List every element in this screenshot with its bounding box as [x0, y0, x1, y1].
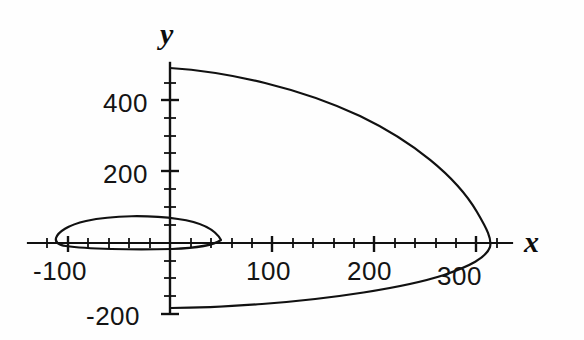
- cartesian-plot: y x 400 200 -200 -100 100 200 300: [0, 0, 584, 340]
- x-tick-label-100: 100: [246, 256, 291, 286]
- x-tick-label-200: 200: [347, 256, 392, 286]
- y-tick-label-minus-200: -200: [86, 301, 140, 331]
- x-tick-label-300: 300: [437, 261, 482, 291]
- y-tick-label-200: 200: [103, 159, 148, 189]
- y-axis-title: y: [157, 17, 174, 50]
- inner-loop-curve: [56, 216, 221, 249]
- x-axis-title: x: [523, 225, 539, 258]
- x-tick-label-minus-100: -100: [33, 256, 87, 286]
- plot-canvas: y x 400 200 -200 -100 100 200 300: [0, 0, 584, 340]
- y-tick-label-400: 400: [103, 88, 148, 118]
